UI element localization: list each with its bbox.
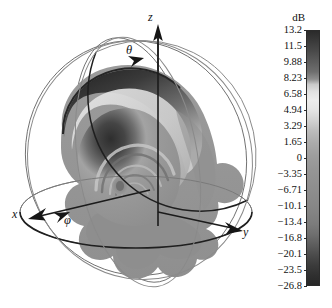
colorbar-tick-label: −26.8 [278,281,302,292]
colorbar-tick-mark [304,238,307,239]
colorbar-tick-label: 9.88 [284,57,302,68]
colorbar-tick-mark [304,190,307,191]
colorbar-tick-label: 0 [297,153,302,164]
colorbar-tick-mark [304,286,307,287]
x-axis-arrowhead [28,208,46,221]
colorbar-tick-label: −3.35 [278,169,302,180]
radiation-pattern-3d-plot [0,0,268,308]
z-axis-label: z [148,11,153,23]
colorbar-tick-mark [304,126,307,127]
radiation-beam-eye-core [116,181,124,191]
colorbar-tick-mark [304,46,307,47]
colorbar-tick-mark [304,222,307,223]
colorbar-tick-label: 8.23 [284,73,302,84]
colorbar-tick-mark [304,174,307,175]
colorbar-tick-label: −6.71 [278,185,302,196]
colorbar-tick-label: −16.8 [278,233,302,244]
colorbar-tick-label: −10.1 [278,201,302,212]
colorbar-tick-mark [304,110,307,111]
colorbar-tick-label: −20.1 [278,249,302,260]
colorbar: dB 13.211.59.888.236.584.943.291.650−3.3… [268,0,332,308]
colorbar-tick-mark [304,62,307,63]
colorbar-tick-label: 3.29 [284,121,302,132]
phi-angle-label: φ [64,214,71,227]
colorbar-tick-mark [304,270,307,271]
theta-angle-label: θ [126,44,132,57]
colorbar-tick-mark [304,30,307,31]
plot-panel: z x y θ φ [0,0,268,308]
radiation-pattern-figure: z x y θ φ dB 13.211.59.888.236.584.943.2… [0,0,332,308]
colorbar-tick-label: 1.65 [284,137,302,148]
y-axis-label: y [243,226,248,238]
colorbar-tick-label: −13.4 [278,217,302,228]
colorbar-tick-label: 11.5 [284,41,302,52]
colorbar-tick-label: 6.58 [284,89,302,100]
colorbar-title: dB [292,11,305,23]
colorbar-tick-mark [304,206,307,207]
colorbar-tick-mark [304,78,307,79]
colorbar-tick-label: 4.94 [284,105,302,116]
colorbar-tick-label: −23.5 [278,265,302,276]
colorbar-tick-label: 13.2 [284,25,302,36]
colorbar-tick-mark [304,254,307,255]
colorbar-tick-mark [304,142,307,143]
colorbar-gradient [306,30,320,286]
colorbar-tick-mark [304,94,307,95]
colorbar-tick-labels: 13.211.59.888.236.584.943.291.650−3.35−6… [268,30,304,286]
colorbar-tick-mark [304,158,307,159]
x-axis-label: x [12,208,17,220]
